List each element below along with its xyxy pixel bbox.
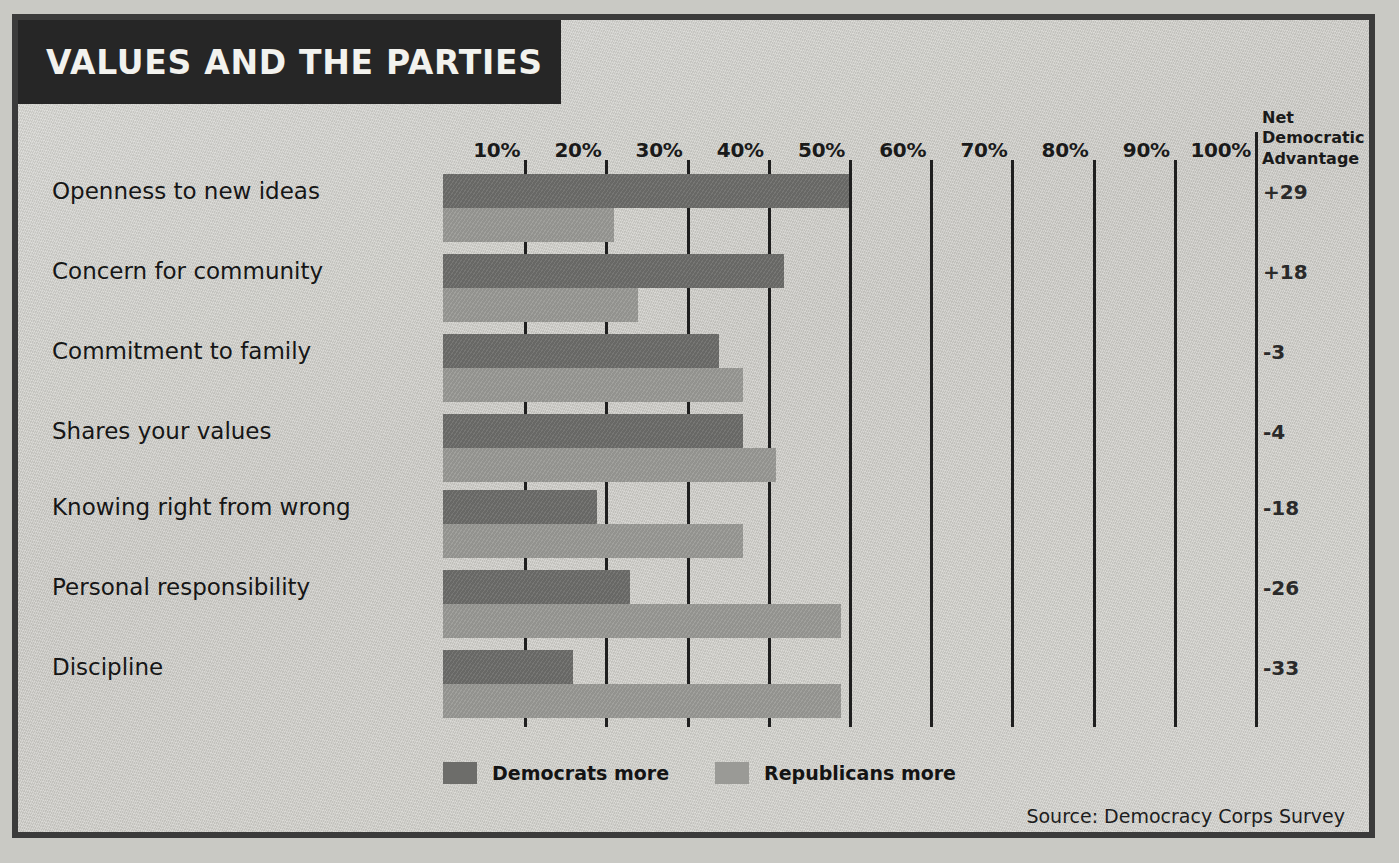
- bar-republicans: [443, 208, 614, 242]
- legend-swatch-democrats: [443, 762, 477, 784]
- net-advantage-value: +18: [1263, 260, 1308, 284]
- net-advantage-value: +29: [1263, 180, 1308, 204]
- legend-label-republicans: Republicans more: [764, 762, 956, 784]
- net-advantage-value: -4: [1263, 420, 1285, 444]
- bar-republicans: [443, 684, 841, 718]
- legend-label-democrats: Democrats more: [492, 762, 669, 784]
- bar-republicans: [443, 368, 743, 402]
- bar-row: [443, 414, 1263, 482]
- x-tick-label-70: 70%: [960, 138, 1007, 162]
- chart-figure: VALUES AND THE PARTIES Openness to new i…: [12, 14, 1375, 838]
- category-label: Openness to new ideas: [52, 178, 320, 204]
- plot-area: 10%20%30%40%50%60%70%80%90%100%: [443, 20, 1263, 844]
- bar-democrats: [443, 570, 630, 604]
- category-label: Knowing right from wrong: [52, 494, 351, 520]
- bar-row: [443, 490, 1263, 558]
- category-label: Concern for community: [52, 258, 323, 284]
- net-header-line: Net: [1262, 108, 1365, 128]
- net-advantage-value: -18: [1263, 496, 1299, 520]
- x-tick-label-50: 50%: [798, 138, 845, 162]
- bar-row: [443, 334, 1263, 402]
- net-header-line: Democratic: [1262, 128, 1365, 148]
- bar-republicans: [443, 288, 638, 322]
- category-label: Discipline: [52, 654, 163, 680]
- chart-legend: Democrats moreRepublicans more: [443, 762, 956, 784]
- legend-swatch-republicans: [715, 762, 749, 784]
- bar-republicans: [443, 448, 776, 482]
- category-label: Personal responsibility: [52, 574, 310, 600]
- x-tick-label-60: 60%: [879, 138, 926, 162]
- bar-row: [443, 570, 1263, 638]
- net-advantage-value: -3: [1263, 340, 1285, 364]
- bar-republicans: [443, 524, 743, 558]
- category-label: Shares your values: [52, 418, 272, 444]
- x-tick-label-40: 40%: [717, 138, 764, 162]
- x-tick-label-80: 80%: [1042, 138, 1089, 162]
- x-tick-label-30: 30%: [636, 138, 683, 162]
- legend-item-republicans: Republicans more: [715, 762, 956, 784]
- bar-democrats: [443, 490, 597, 524]
- x-tick-label-10: 10%: [473, 138, 520, 162]
- net-advantage-header: NetDemocraticAdvantage: [1262, 108, 1365, 169]
- bar-row: [443, 650, 1263, 718]
- net-header-line: Advantage: [1262, 149, 1365, 169]
- net-advantage-value: -33: [1263, 656, 1299, 680]
- category-label: Commitment to family: [52, 338, 311, 364]
- x-tick-label-100: 100%: [1190, 138, 1251, 162]
- x-tick-label-20: 20%: [554, 138, 601, 162]
- legend-item-democrats: Democrats more: [443, 762, 669, 784]
- bar-democrats: [443, 414, 743, 448]
- bar-democrats: [443, 334, 719, 368]
- net-advantage-value: -26: [1263, 576, 1299, 600]
- bar-republicans: [443, 604, 841, 638]
- bar-democrats: [443, 174, 849, 208]
- bar-democrats: [443, 650, 573, 684]
- bar-row: [443, 174, 1263, 242]
- source-note: Source: Democracy Corps Survey: [1026, 805, 1345, 827]
- bar-row: [443, 254, 1263, 322]
- bar-democrats: [443, 254, 784, 288]
- x-tick-label-90: 90%: [1123, 138, 1170, 162]
